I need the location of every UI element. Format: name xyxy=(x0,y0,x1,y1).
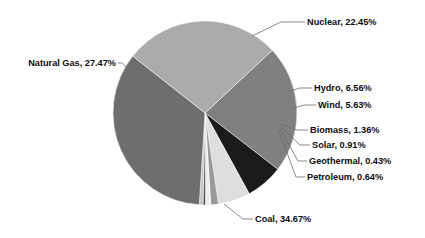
leader-line-nuclear xyxy=(252,22,305,36)
pie-chart-page: Nuclear, 22.45% Natural Gas, 27.47% Hydr… xyxy=(0,0,425,238)
pie-label-natural-gas: Natural Gas, 27.47% xyxy=(28,58,116,68)
pie-slice-group xyxy=(113,21,297,205)
leader-line-coal xyxy=(224,204,253,219)
pie-label-solar: Solar, 0.91% xyxy=(312,140,366,150)
pie-label-hydro: Hydro, 6.56% xyxy=(314,83,372,93)
pie-label-coal: Coal, 34.67% xyxy=(255,214,311,224)
pie-label-geothermal: Geothermal, 0.43% xyxy=(309,156,391,166)
pie-label-biomass: Biomass, 1.36% xyxy=(310,125,379,135)
pie-label-wind: Wind, 5.63% xyxy=(318,100,372,110)
pie-chart: Nuclear, 22.45% Natural Gas, 27.47% Hydr… xyxy=(0,0,425,238)
pie-label-nuclear: Nuclear, 22.45% xyxy=(307,17,376,27)
pie-label-petroleum: Petroleum, 0.64% xyxy=(307,172,383,182)
